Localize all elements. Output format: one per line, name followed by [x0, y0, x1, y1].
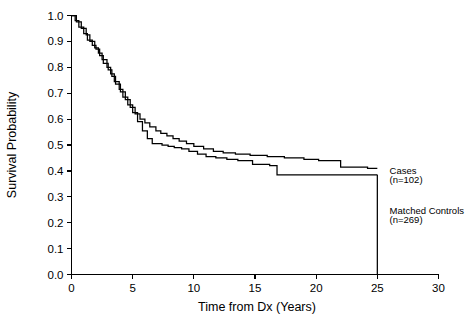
y-tick-label: 0.1 [48, 243, 64, 255]
series-annotation-3: (n=269) [390, 214, 423, 225]
x-axis-ticks: 051015202530 [68, 275, 445, 294]
y-tick-label: 0.9 [48, 35, 64, 47]
x-tick-label: 30 [432, 282, 445, 294]
x-tick-label: 10 [187, 282, 200, 294]
x-tick-label: 15 [249, 282, 262, 294]
y-tick-label: 0.4 [48, 165, 65, 177]
x-tick-label: 5 [129, 282, 135, 294]
y-tick-label: 0.5 [48, 139, 64, 151]
y-axis-ticks: 0.00.10.20.30.40.50.60.70.80.91.0 [48, 10, 72, 281]
series-annotation-1: (n=102) [390, 174, 423, 185]
y-tick-label: 0.0 [48, 269, 64, 281]
survival-curve-figure: 0.00.10.20.30.40.50.60.70.80.91.0 051015… [0, 0, 470, 329]
survival-curve-matched-controls [72, 16, 378, 169]
survival-curves [72, 16, 378, 275]
y-tick-label: 0.3 [48, 191, 64, 203]
x-tick-label: 20 [310, 282, 323, 294]
y-tick-label: 0.6 [48, 113, 64, 125]
survival-curve-cases [72, 16, 378, 175]
x-axis-title: Time from Dx (Years) [198, 300, 316, 314]
axes-group [72, 16, 439, 275]
chart-canvas: 0.00.10.20.30.40.50.60.70.80.91.0 051015… [0, 0, 470, 329]
x-tick-label: 0 [68, 282, 74, 294]
series-annotations: Cases(n=102)Matched Controls(n=269) [390, 165, 465, 225]
x-tick-label: 25 [371, 282, 384, 294]
y-axis-title: Survival Probability [5, 91, 19, 198]
y-tick-label: 0.8 [48, 61, 64, 73]
y-tick-label: 1.0 [48, 10, 64, 22]
y-tick-label: 0.2 [48, 217, 64, 229]
y-tick-label: 0.7 [48, 87, 64, 99]
